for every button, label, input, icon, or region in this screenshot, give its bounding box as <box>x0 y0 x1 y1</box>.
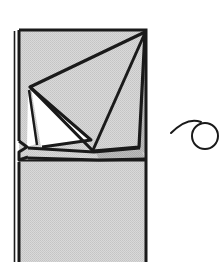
spiral-loop-circle <box>192 123 218 149</box>
spiral-motif <box>171 121 218 149</box>
folded-sheet-illustration <box>0 0 222 273</box>
figure-root: Folded sheet diagram with spiral motif <box>0 0 222 273</box>
